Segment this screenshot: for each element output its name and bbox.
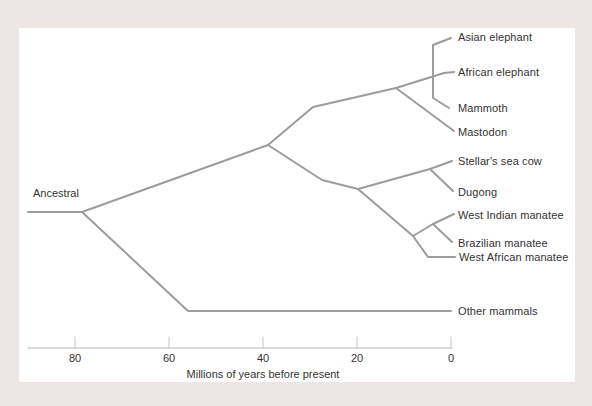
taxon-label-west-african-manatee: West African manatee — [459, 251, 568, 263]
branch-other-mammals — [82, 212, 451, 311]
branch-dugongid-stellars — [358, 161, 452, 189]
phylogenetic-tree — [0, 0, 592, 406]
branch-sirenian-stem — [268, 145, 358, 189]
axis-tick-label-20: 20 — [351, 352, 363, 364]
taxon-label-african-elephant: African elephant — [458, 66, 539, 78]
axis-tick-label-40: 40 — [257, 352, 269, 364]
axis-tick-label-60: 60 — [163, 352, 175, 364]
branch-african-elephant — [396, 72, 454, 88]
taxon-label-asian-elephant: Asian elephant — [458, 31, 532, 43]
branch-brazilian-manatee — [433, 224, 452, 242]
branch-mastodon — [396, 88, 454, 131]
axis-tick-label-0: 0 — [448, 352, 454, 364]
ancestral-label: Ancestral — [33, 187, 79, 199]
figure-frame: Ancestral Asian elephantAfrican elephant… — [0, 0, 592, 406]
axis-title: Millions of years before present — [187, 368, 340, 380]
taxon-label-mammoth: Mammoth — [458, 102, 508, 114]
taxon-label-other-mammals: Other mammals — [458, 305, 538, 317]
axis-tick-label-80: 80 — [69, 352, 81, 364]
branch-root-to-main-vertex — [82, 145, 268, 212]
taxon-label-stellar-s-sea-cow: Stellar's sea cow — [458, 155, 542, 167]
taxon-label-brazilian-manatee: Brazilian manatee — [458, 237, 548, 249]
branch-dugong — [430, 169, 453, 191]
taxon-label-west-indian-manatee: West Indian manatee — [458, 209, 564, 221]
branch-manatee-stem — [358, 189, 413, 236]
taxon-label-mastodon: Mastodon — [458, 126, 507, 138]
branch-elephant-stem — [268, 88, 396, 145]
taxon-label-dugong: Dugong — [458, 186, 497, 198]
